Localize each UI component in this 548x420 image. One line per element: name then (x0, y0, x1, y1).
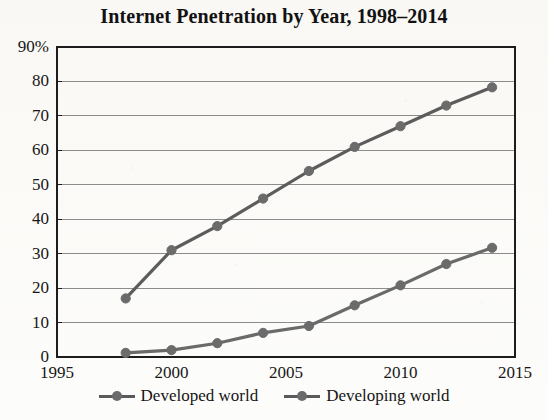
data-point (304, 321, 313, 330)
y-axis-label: 60 (32, 140, 49, 160)
y-axis-label: 30 (32, 244, 49, 264)
data-point (396, 122, 405, 131)
chart-page: Internet Penetration by Year, 1998–2014 … (0, 0, 548, 420)
legend-label: Developing world (326, 386, 449, 406)
y-axis-label: 20 (32, 278, 49, 298)
data-point (488, 243, 497, 252)
data-point (396, 281, 405, 290)
data-point (488, 83, 497, 92)
x-axis-label: 2015 (498, 363, 532, 383)
plot-border (57, 47, 515, 357)
data-point (442, 259, 451, 268)
data-point (121, 294, 130, 303)
data-point (259, 328, 268, 337)
x-axis-label: 2005 (269, 363, 303, 383)
y-axis-label: 90% (18, 37, 49, 57)
y-axis-label: 80 (32, 71, 49, 91)
plot-area (0, 0, 548, 420)
chart-legend: Developed world Developing world (0, 386, 548, 406)
x-axis-label: 2010 (384, 363, 418, 383)
data-point (442, 101, 451, 110)
legend-marker-icon (284, 389, 320, 403)
x-axis-label: 1995 (40, 363, 74, 383)
data-point (350, 142, 359, 151)
y-axis-label: 50 (32, 175, 49, 195)
y-axis-label: 40 (32, 209, 49, 229)
y-axis-label: 10 (32, 313, 49, 333)
data-point (213, 339, 222, 348)
data-point (304, 166, 313, 175)
legend-item-developed-world: Developed world (99, 386, 259, 406)
data-point (121, 348, 130, 357)
data-point (167, 346, 176, 355)
line-chart-svg (0, 0, 548, 420)
data-point (259, 194, 268, 203)
series-line-developing-world (126, 248, 492, 353)
data-point (167, 246, 176, 255)
legend-label: Developed world (141, 386, 259, 406)
legend-marker-icon (99, 389, 135, 403)
x-axis-label: 2000 (155, 363, 189, 383)
legend-item-developing-world: Developing world (284, 386, 449, 406)
data-point (350, 301, 359, 310)
data-point (213, 222, 222, 231)
y-axis-label: 70 (32, 106, 49, 126)
